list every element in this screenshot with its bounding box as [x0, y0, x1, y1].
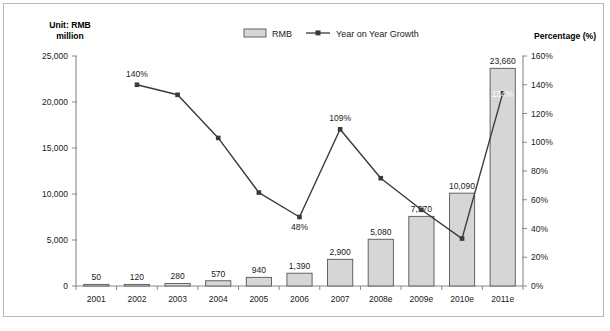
legend-marker-growth	[316, 30, 321, 35]
bar-value-label-2004: 570	[211, 269, 225, 279]
growth-annotation-2011e: 134%	[492, 89, 514, 99]
dual-axis-chart: Unit: RMBmillionPercentage (%)RMBYear on…	[4, 4, 603, 316]
growth-point-2008e[interactable]	[378, 176, 383, 181]
bar-2008e[interactable]	[368, 239, 393, 286]
right-axis-tick-label: 60%	[531, 195, 548, 205]
growth-point-2003[interactable]	[175, 93, 180, 98]
bar-2009e[interactable]	[409, 216, 434, 286]
growth-point-2007[interactable]	[338, 127, 343, 132]
bar-2006[interactable]	[287, 273, 312, 286]
bar-value-label-2002: 120	[130, 272, 144, 282]
x-axis-category-label: 2003	[168, 294, 187, 304]
bar-2011e[interactable]	[490, 68, 515, 286]
right-axis-tick-label: 40%	[531, 224, 548, 234]
bar-2004[interactable]	[206, 281, 231, 286]
legend-label-growth: Year on Year Growth	[336, 29, 419, 39]
growth-point-2009e[interactable]	[419, 208, 424, 213]
left-axis-tick-label: 0	[63, 281, 68, 291]
right-axis-title: Percentage (%)	[534, 31, 596, 41]
bar-2001[interactable]	[84, 284, 109, 286]
growth-point-2010e[interactable]	[460, 236, 465, 241]
right-axis-tick-label: 20%	[531, 252, 548, 262]
x-axis-category-label: 2005	[249, 294, 268, 304]
bar-2002[interactable]	[124, 284, 149, 286]
bar-2005[interactable]	[246, 277, 271, 286]
left-axis-tick-label: 15,000	[42, 143, 68, 153]
bar-value-label-2011e: 23,660	[490, 56, 516, 66]
x-axis-category-label: 2011e	[491, 294, 514, 304]
growth-point-2005[interactable]	[257, 190, 262, 195]
right-axis-tick-label: 100%	[531, 137, 553, 147]
growth-annotation-2006: 48%	[291, 222, 308, 232]
right-axis-tick-label: 140%	[531, 80, 553, 90]
growth-point-2006[interactable]	[297, 215, 302, 220]
bar-value-label-2008e: 5,080	[370, 227, 392, 237]
bar-value-label-2003: 280	[170, 271, 184, 281]
growth-annotation-2002: 140%	[126, 69, 148, 79]
bar-value-label-2001: 50	[92, 272, 102, 282]
bar-value-label-2006: 1,390	[289, 261, 311, 271]
left-axis-tick-label: 20,000	[42, 97, 68, 107]
screenshot-root: Unit: RMBmillionPercentage (%)RMBYear on…	[0, 0, 610, 331]
left-axis-tick-label: 5,000	[47, 235, 69, 245]
x-axis-category-label: 2004	[209, 294, 228, 304]
left-axis-title-line2: million	[56, 31, 84, 41]
legend-label-rmb: RMB	[272, 29, 292, 39]
x-axis-category-label: 2008e	[369, 294, 393, 304]
growth-annotation-2007: 109%	[329, 113, 351, 123]
x-axis-category-label: 2002	[127, 294, 146, 304]
right-axis-tick-label: 160%	[531, 51, 553, 61]
right-axis-tick-label: 120%	[531, 109, 553, 119]
right-axis-tick-label: 0%	[531, 281, 544, 291]
bar-value-label-2005: 940	[252, 265, 266, 275]
x-axis-category-label: 2007	[331, 294, 350, 304]
x-axis-category-label: 2001	[87, 294, 106, 304]
bar-value-label-2010e: 10,090	[449, 181, 475, 191]
growth-point-2002[interactable]	[135, 82, 140, 87]
growth-point-2004[interactable]	[216, 136, 221, 141]
left-axis-tick-label: 25,000	[42, 51, 68, 61]
bar-2003[interactable]	[165, 283, 190, 286]
bar-value-label-2007: 2,900	[329, 247, 351, 257]
left-axis-title-line1: Unit: RMB	[49, 20, 91, 30]
x-axis-category-label: 2006	[290, 294, 309, 304]
left-axis-tick-label: 10,000	[42, 189, 68, 199]
bar-2007[interactable]	[328, 259, 353, 286]
x-axis-category-label: 2009e	[410, 294, 434, 304]
x-axis-category-label: 2010e	[450, 294, 474, 304]
growth-line	[137, 85, 503, 239]
cropped-footnote-fragment	[6, 320, 206, 328]
legend-swatch-rmb	[244, 29, 266, 37]
chart-frame: Unit: RMBmillionPercentage (%)RMBYear on…	[3, 3, 604, 317]
right-axis-tick-label: 80%	[531, 166, 548, 176]
